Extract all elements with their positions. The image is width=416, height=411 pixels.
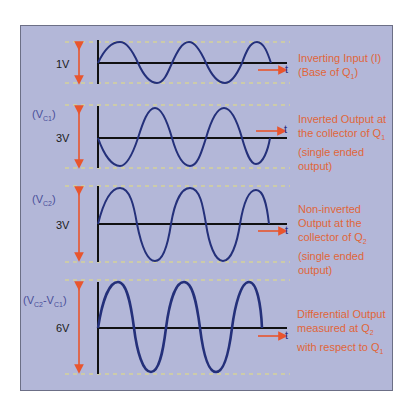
amplitude-label-6v: 6V bbox=[56, 321, 69, 335]
section-differential bbox=[65, 280, 290, 374]
amplitude-label-1v: 1V bbox=[56, 57, 69, 71]
description-vc1: Inverted Output at the collector of Q1 (… bbox=[298, 112, 386, 173]
description-vc2: Non-inverted Output at the collector of … bbox=[298, 202, 367, 277]
description-differential: Differential Output measured at Q2 with … bbox=[297, 307, 385, 359]
time-label: t bbox=[285, 63, 288, 75]
time-label: t bbox=[285, 224, 288, 236]
section-inverting-input bbox=[65, 40, 290, 84]
amplitude-label-3v: 3V bbox=[56, 131, 69, 145]
section-vc2 bbox=[65, 186, 290, 262]
signal-label-vc2: (VC2) bbox=[32, 192, 56, 211]
time-label: t bbox=[284, 123, 287, 135]
description-inverting-input: Inverting Input (I) (Base of Q1) bbox=[298, 51, 381, 84]
time-label: t bbox=[285, 329, 288, 341]
signal-label-vc1: (VC1) bbox=[32, 107, 56, 126]
amplitude-label-3v: 3V bbox=[56, 218, 69, 232]
section-vc1 bbox=[65, 105, 290, 168]
signal-label-differential: (VC2-VC1) bbox=[23, 293, 67, 312]
